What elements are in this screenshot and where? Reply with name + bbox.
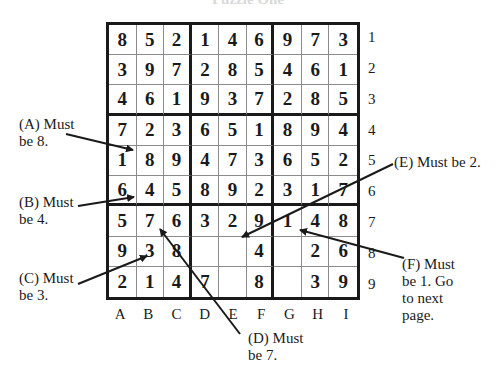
column-label: C: [162, 306, 190, 323]
grid-cell-i6: 7: [329, 176, 357, 206]
grid-cell-c7: 6: [164, 206, 192, 236]
grid-cell-e6: 9: [219, 176, 247, 206]
grid-cell-f3: 7: [247, 85, 275, 115]
grid-cell-c6: 5: [164, 176, 192, 206]
grid-cell-h7: 4: [302, 206, 330, 236]
row-label: 3: [368, 84, 384, 115]
grid-cell-e5: 7: [219, 146, 247, 176]
grid-cell-h8: 2: [302, 237, 330, 267]
grid-cell-i2: 1: [329, 55, 357, 85]
grid-cell-f6: 2: [247, 176, 275, 206]
grid-cell-h1: 7: [302, 25, 330, 55]
page-title: Puzzle One: [0, 0, 496, 8]
annotation-e: (E) Must be 2.: [394, 154, 481, 171]
grid-cell-a1: 8: [109, 25, 137, 55]
grid-cell-d6: 8: [192, 176, 220, 206]
grid-cell-g5: 6: [274, 146, 302, 176]
column-label: D: [191, 306, 219, 323]
row-label: 6: [368, 176, 384, 207]
grid-cell-a5: 1: [109, 146, 137, 176]
grid-cell-c3: 1: [164, 85, 192, 115]
grid-cell-a7: 5: [109, 206, 137, 236]
grid-cell-g2: 4: [274, 55, 302, 85]
grid-cell-d2: 2: [192, 55, 220, 85]
column-label: H: [304, 306, 332, 323]
grid-cell-g8: [274, 237, 302, 267]
annotation-b: (B) Must be 4.: [19, 194, 74, 228]
grid-cell-i8: 6: [329, 237, 357, 267]
grid-cell-c1: 2: [164, 25, 192, 55]
grid-cell-a2: 3: [109, 55, 137, 85]
grid-cell-c9: 4: [164, 267, 192, 297]
grid-cell-i3: 5: [329, 85, 357, 115]
column-label: F: [247, 306, 275, 323]
grid-cell-a3: 4: [109, 85, 137, 115]
grid-cell-e4: 5: [219, 116, 247, 146]
row-label: 1: [368, 22, 384, 53]
row-label: 5: [368, 146, 384, 177]
column-label: E: [219, 306, 247, 323]
grid-cell-b3: 6: [137, 85, 165, 115]
grid-cell-a8: 9: [109, 237, 137, 267]
grid-cell-a6: 6: [109, 176, 137, 206]
grid-cell-i9: 9: [329, 267, 357, 297]
grid-cell-g9: [274, 267, 302, 297]
grid-cell-c5: 9: [164, 146, 192, 176]
grid-cell-b2: 9: [137, 55, 165, 85]
column-labels: ABCDEFGHI: [106, 306, 360, 323]
grid-cell-f7: 9: [247, 206, 275, 236]
grid-cell-c8: 8: [164, 237, 192, 267]
grid-cell-f8: 4: [247, 237, 275, 267]
grid-cell-b1: 5: [137, 25, 165, 55]
grid-cell-h2: 6: [302, 55, 330, 85]
grid-cell-d5: 4: [192, 146, 220, 176]
grid-cell-g7: 1: [274, 206, 302, 236]
grid-cell-d9: 7: [192, 267, 220, 297]
grid-cell-b7: 7: [137, 206, 165, 236]
grid-cell-f9: 8: [247, 267, 275, 297]
grid-cell-g1: 9: [274, 25, 302, 55]
row-label: 8: [368, 238, 384, 269]
grid-cell-e3: 3: [219, 85, 247, 115]
annotation-c: (C) Must be 3.: [19, 270, 74, 304]
grid-cell-i1: 3: [329, 25, 357, 55]
column-label: G: [275, 306, 303, 323]
grid-cell-f1: 6: [247, 25, 275, 55]
grid-cell-b5: 8: [137, 146, 165, 176]
grid-cell-d3: 9: [192, 85, 220, 115]
grid-cell-d1: 1: [192, 25, 220, 55]
grid-cell-e9: [219, 267, 247, 297]
row-labels: 123456789: [368, 22, 384, 300]
grid-cell-e1: 4: [219, 25, 247, 55]
grid-cell-c4: 3: [164, 116, 192, 146]
grid-cell-d4: 6: [192, 116, 220, 146]
grid-cell-e8: [219, 237, 247, 267]
annotation-f: (F) Must be 1. Go to next page.: [402, 256, 455, 324]
grid-cell-h4: 9: [302, 116, 330, 146]
grid-cell-g6: 3: [274, 176, 302, 206]
grid-cell-h3: 8: [302, 85, 330, 115]
grid-cell-a4: 7: [109, 116, 137, 146]
grid-cell-i5: 2: [329, 146, 357, 176]
grid-cell-b9: 1: [137, 267, 165, 297]
column-label: B: [134, 306, 162, 323]
grid-cell-h5: 5: [302, 146, 330, 176]
grid-cell-f2: 5: [247, 55, 275, 85]
grid-cell-f4: 1: [247, 116, 275, 146]
annotation-a: (A) Must be 8.: [19, 116, 74, 150]
sudoku-grid: 8521469733972854614619372857236518941894…: [106, 22, 360, 300]
column-label: A: [106, 306, 134, 323]
row-label: 7: [368, 207, 384, 238]
grid-cell-a9: 2: [109, 267, 137, 297]
grid-cell-h9: 3: [302, 267, 330, 297]
grid-cell-d8: [192, 237, 220, 267]
grid-cell-b4: 2: [137, 116, 165, 146]
grid-cell-d7: 3: [192, 206, 220, 236]
column-label: I: [332, 306, 360, 323]
grid-cell-b8: 3: [137, 237, 165, 267]
annotation-d: (D) Must be 7.: [248, 330, 303, 364]
grid-cell-b6: 4: [137, 176, 165, 206]
grid-cell-e2: 8: [219, 55, 247, 85]
grid-cell-h6: 1: [302, 176, 330, 206]
row-label: 2: [368, 53, 384, 84]
